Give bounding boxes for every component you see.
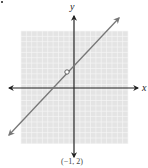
x-axis-label: x [142,83,146,93]
coordinate-plane [0,0,148,168]
point-caption: (−1, 2) [61,158,83,166]
open-point-hole [65,70,69,74]
y-axis-label: y [70,2,74,12]
